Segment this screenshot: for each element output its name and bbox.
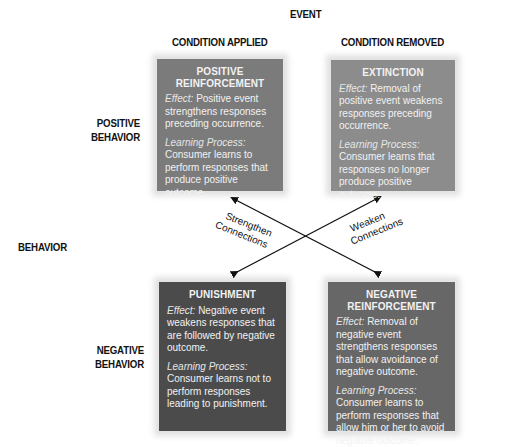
title-line: REINFORCEMENT <box>336 301 447 313</box>
effect-label: Effect: <box>336 316 364 327</box>
learning-label: Learning Process: <box>336 385 417 396</box>
learning-label: Learning Process: <box>167 361 248 372</box>
learning-text: Consumer learns to perform responses tha… <box>165 149 268 198</box>
title-line: NEGATIVE <box>336 289 447 301</box>
effect-paragraph: Effect: Negative event weakens responses… <box>167 305 278 355</box>
punishment-box: PUNISHMENT Effect: Negative event weaken… <box>157 280 288 433</box>
title-line: EXTINCTION <box>339 67 447 79</box>
extinction-title: EXTINCTION <box>339 67 447 79</box>
learning-paragraph: Learning Process:Consumer learns to perf… <box>165 137 275 200</box>
learning-paragraph: Learning Process:Consumer learns to perf… <box>336 385 447 447</box>
effect-paragraph: Effect: Removal of negative event streng… <box>336 316 447 379</box>
extinction-box: EXTINCTION Effect: Removal of positive e… <box>329 58 457 193</box>
learning-text: Consumer learns to perform responses tha… <box>336 397 444 446</box>
effect-label: Effect: <box>339 83 367 94</box>
negative-reinforcement-box: NEGATIVE REINFORCEMENT Effect: Removal o… <box>326 280 457 433</box>
effect-label: Effect: <box>165 93 193 104</box>
effect-paragraph: Effect: Removal of positive event weaken… <box>339 83 447 133</box>
learning-text: Consumer learns that responses no longer… <box>339 151 435 200</box>
effect-paragraph: Effect: Positive event strengthens respo… <box>165 93 275 131</box>
effect-label: Effect: <box>167 305 195 316</box>
learning-text: Consumer learns not to perform responses… <box>167 373 271 409</box>
learning-paragraph: Learning Process:Consumer learns not to … <box>167 361 278 411</box>
title-line: POSITIVE <box>165 66 275 78</box>
positive-reinforcement-box: POSITIVE REINFORCEMENT Effect: Positive … <box>155 57 285 193</box>
negative-reinforcement-title: NEGATIVE REINFORCEMENT <box>336 289 447 312</box>
punishment-title: PUNISHMENT <box>167 289 278 301</box>
learning-label: Learning Process: <box>165 137 246 148</box>
positive-reinforcement-title: POSITIVE REINFORCEMENT <box>165 66 275 89</box>
learning-paragraph: Learning Process:Consumer learns that re… <box>339 139 447 202</box>
title-line: PUNISHMENT <box>167 289 278 301</box>
learning-label: Learning Process: <box>339 139 420 150</box>
title-line: REINFORCEMENT <box>165 78 275 90</box>
